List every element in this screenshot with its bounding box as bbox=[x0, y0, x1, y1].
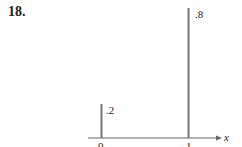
probability-spike-chart bbox=[0, 0, 242, 147]
x-tick-1: 1 bbox=[186, 140, 192, 147]
x-axis-arrow-icon bbox=[216, 136, 222, 141]
value-label-x1: .8 bbox=[195, 8, 203, 20]
x-axis-label: x bbox=[224, 131, 229, 143]
x-tick-0: 0 bbox=[98, 140, 104, 147]
value-label-x0: .2 bbox=[106, 104, 114, 116]
